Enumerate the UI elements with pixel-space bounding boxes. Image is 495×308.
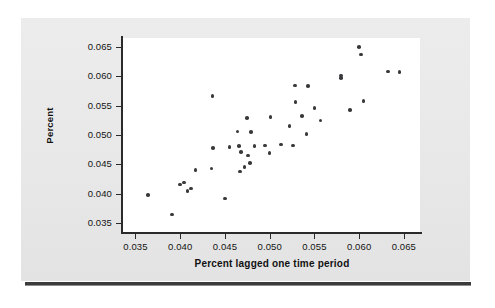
data-point [339,76,343,80]
x-tick-mark [225,234,226,239]
data-point [359,53,363,57]
x-axis-label: Percent lagged one time period [122,258,422,269]
data-point [300,114,304,118]
data-point [245,116,249,120]
x-tick-mark [404,234,405,239]
y-axis-label: Percent [44,76,55,176]
data-point [291,144,295,148]
data-point [211,94,215,98]
data-point [146,193,150,197]
y-tick-mark [116,106,121,107]
data-point [223,197,227,201]
x-tick-mark [135,234,136,239]
y-tick-label: 0.055 [66,100,112,111]
data-point [313,106,317,110]
data-point [288,124,292,128]
x-tick-label: 0.065 [381,241,427,252]
data-point [182,181,186,185]
y-axis-line [121,36,123,234]
y-tick-label: 0.050 [66,129,112,140]
data-point [306,84,310,88]
x-tick-mark [270,234,271,239]
x-tick-label: 0.035 [112,241,158,252]
x-tick-mark [314,234,315,239]
x-axis-line [122,232,422,234]
data-point [237,144,241,148]
x-tick-label: 0.060 [336,241,382,252]
y-tick-label: 0.035 [66,217,112,228]
y-tick-mark [116,47,121,48]
x-tick-label: 0.050 [247,241,293,252]
data-point [189,187,193,191]
x-tick-label: 0.040 [157,241,203,252]
data-point [305,132,309,136]
x-tick-mark [180,234,181,239]
data-point [248,161,252,165]
data-point [348,108,352,112]
y-tick-label: 0.060 [66,70,112,81]
data-point [398,70,402,74]
y-tick-mark [116,76,121,77]
data-point [239,150,243,154]
data-point [238,170,242,174]
data-point [211,146,215,150]
data-point [357,45,361,49]
data-point [269,115,273,119]
data-point [243,165,247,169]
x-tick-label: 0.045 [202,241,248,252]
figure-scatter-plot: 0.0350.0400.0450.0500.0550.0600.065 0.03… [0,0,495,308]
data-point [249,130,253,134]
x-tick-label: 0.055 [291,241,337,252]
data-point [253,144,257,148]
y-tick-label: 0.045 [66,158,112,169]
y-tick-mark [116,135,121,136]
y-tick-mark [116,194,121,195]
data-point [170,213,174,217]
y-tick-label: 0.065 [66,41,112,52]
y-tick-mark [116,223,121,224]
y-tick-label: 0.040 [66,188,112,199]
data-point [228,145,232,149]
data-point [386,70,390,74]
page-bottom-rule-shadow [25,285,471,286]
plot-area [122,38,420,232]
y-tick-mark [116,164,121,165]
x-tick-mark [359,234,360,239]
data-point [293,84,297,88]
